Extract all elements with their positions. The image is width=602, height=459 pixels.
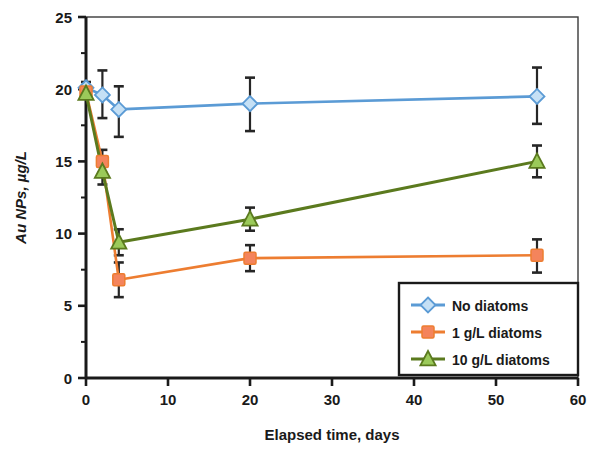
x-axis-ticks: 0102030405060 [82,378,587,408]
y-tick-label: 10 [55,225,72,242]
legend-label: 10 g/L diatoms [452,352,550,368]
x-tick-label: 40 [406,391,423,408]
x-tick-label: 50 [488,391,505,408]
data-point-marker [243,96,258,111]
data-point-marker [529,153,544,167]
x-tick-label: 10 [160,391,177,408]
data-point-marker [531,249,543,261]
series-markers-2 [78,86,544,249]
error-bars-series-2 [81,89,542,255]
x-tick-label: 60 [570,391,587,408]
series-0 [86,88,537,110]
legend-item-1[interactable]: 1 g/L diatoms [411,325,542,341]
data-point-marker [422,326,434,338]
data-point-marker [530,89,545,104]
data-point-marker [244,252,256,264]
x-axis-title: Elapsed time, days [264,426,399,443]
au-nps-line-chart: 05101520250102030405060Elapsed time, day… [0,0,602,459]
series-line [86,94,537,243]
y-tick-label: 5 [64,297,72,314]
legend-label: No diatoms [452,298,528,314]
data-point-marker [113,274,125,286]
error-bars-series-1 [81,88,542,297]
x-tick-label: 30 [324,391,341,408]
series-1 [86,92,537,280]
series-2 [86,94,537,243]
chart-figure: 05101520250102030405060Elapsed time, day… [0,0,602,459]
x-tick-label: 0 [82,391,90,408]
y-axis-ticks: 0510152025 [55,9,86,387]
legend: No diatoms1 g/L diatoms10 g/L diatoms [399,283,578,375]
y-tick-label: 0 [64,370,72,387]
legend-item-0[interactable]: No diatoms [411,298,528,314]
y-tick-label: 20 [55,81,72,98]
x-tick-label: 20 [242,391,259,408]
series-line [86,88,537,110]
series-line [86,92,537,280]
legend-label: 1 g/L diatoms [452,325,542,341]
y-axis-title: Au NPs, µg/L [12,151,29,245]
y-tick-label: 15 [55,153,72,170]
y-tick-label: 25 [55,9,72,26]
